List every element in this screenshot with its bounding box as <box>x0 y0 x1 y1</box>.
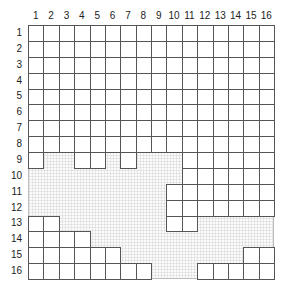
column-label: 13 <box>213 10 228 22</box>
row-label: 16 <box>0 265 22 277</box>
grid-cell <box>28 41 44 58</box>
grid-cell <box>105 57 121 74</box>
grid-cell <box>182 89 198 106</box>
grid-cell <box>182 136 198 153</box>
column-label: 4 <box>74 10 89 22</box>
column-label: 10 <box>166 10 181 22</box>
grid-cell <box>228 25 244 42</box>
grid-cell <box>28 57 44 74</box>
grid-cell <box>43 263 59 280</box>
grid-cell <box>120 89 136 106</box>
grid-cell <box>120 104 136 121</box>
grid-cell <box>197 25 213 42</box>
grid-cell <box>243 89 259 106</box>
grid-cell <box>182 120 198 137</box>
grid-cell <box>259 184 275 201</box>
grid-cell <box>166 216 182 233</box>
grid-cell <box>213 168 229 185</box>
row-label: 5 <box>0 90 22 102</box>
grid-cell <box>197 136 213 153</box>
grid-cell <box>136 263 152 280</box>
grid-cell <box>120 263 136 280</box>
grid-cell <box>105 120 121 137</box>
grid-cell <box>166 73 182 90</box>
grid-cell <box>90 104 106 121</box>
grid-cell <box>28 120 44 137</box>
grid-cell <box>136 89 152 106</box>
grid-cell <box>197 152 213 169</box>
grid-cell <box>28 152 44 169</box>
grid-cell <box>151 136 167 153</box>
grid-cell <box>90 25 106 42</box>
grid-cell <box>182 216 198 233</box>
row-label: 15 <box>0 249 22 261</box>
grid-cell <box>28 89 44 106</box>
grid-cell <box>166 136 182 153</box>
grid-cell <box>74 152 90 169</box>
grid-cell <box>213 104 229 121</box>
grid-cell <box>151 73 167 90</box>
column-label: 15 <box>243 10 258 22</box>
grid-cell <box>259 104 275 121</box>
grid-cell <box>166 57 182 74</box>
grid-cell <box>151 120 167 137</box>
grid-cell <box>28 73 44 90</box>
grid-cell <box>120 41 136 58</box>
grid-cell <box>243 247 259 264</box>
grid-cell <box>259 168 275 185</box>
grid-cell <box>197 89 213 106</box>
grid-cell <box>166 25 182 42</box>
grid-cell <box>228 73 244 90</box>
grid-cell <box>43 41 59 58</box>
grid-cell <box>43 89 59 106</box>
grid-cell <box>259 152 275 169</box>
grid-cell <box>213 136 229 153</box>
grid-cell <box>243 200 259 217</box>
grid-cell <box>136 41 152 58</box>
column-label: 12 <box>197 10 212 22</box>
grid-cell <box>182 104 198 121</box>
grid-cell <box>105 104 121 121</box>
grid-cell <box>90 41 106 58</box>
column-label: 7 <box>120 10 135 22</box>
grid-cell <box>213 41 229 58</box>
grid-cell <box>197 57 213 74</box>
grid-cell <box>197 200 213 217</box>
row-label: 2 <box>0 43 22 55</box>
grid-area <box>28 25 274 279</box>
grid-cell <box>166 200 182 217</box>
column-label: 11 <box>182 10 197 22</box>
grid-cell <box>43 247 59 264</box>
grid-cell <box>120 25 136 42</box>
grid-cell <box>136 25 152 42</box>
grid-cell <box>228 41 244 58</box>
column-label: 16 <box>259 10 274 22</box>
grid-cell <box>90 120 106 137</box>
grid-cell <box>213 184 229 201</box>
grid-cell <box>151 57 167 74</box>
row-label: 7 <box>0 122 22 134</box>
grid-cell <box>166 120 182 137</box>
grid-cell <box>136 57 152 74</box>
grid-cell <box>197 41 213 58</box>
grid-cell <box>74 57 90 74</box>
grid-cell <box>243 25 259 42</box>
column-label: 6 <box>105 10 120 22</box>
grid-cell <box>243 168 259 185</box>
grid-cell <box>59 89 75 106</box>
grid-cell <box>228 120 244 137</box>
grid-cell <box>151 104 167 121</box>
grid-cell <box>28 247 44 264</box>
grid-cell <box>197 120 213 137</box>
grid-cell <box>74 120 90 137</box>
column-label: 14 <box>228 10 243 22</box>
row-label: 10 <box>0 170 22 182</box>
grid-cell <box>59 263 75 280</box>
grid-cell <box>259 25 275 42</box>
grid-cell <box>151 41 167 58</box>
grid-cell <box>43 104 59 121</box>
grid-diagram: 12345678910111213141516 1234567891011121… <box>0 0 291 290</box>
column-label: 2 <box>43 10 58 22</box>
grid-cell <box>166 41 182 58</box>
grid-cell <box>182 25 198 42</box>
